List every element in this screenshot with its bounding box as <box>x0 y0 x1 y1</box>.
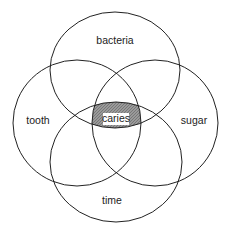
tooth-label: tooth <box>26 114 50 126</box>
bacteria-label: bacteria <box>96 34 134 46</box>
sugar-label: sugar <box>181 114 208 126</box>
venn-diagram: bacteria tooth sugar time caries <box>0 0 230 238</box>
caries-label: caries <box>102 112 130 124</box>
time-label: time <box>102 194 122 206</box>
